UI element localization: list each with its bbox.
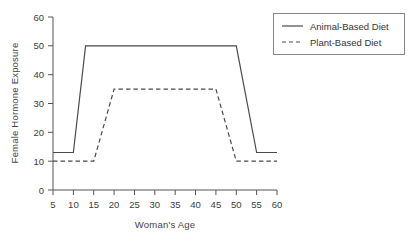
x-tick-label: 5 [50, 199, 55, 210]
x-tick-label: 55 [251, 199, 262, 210]
y-tick-label: 20 [33, 127, 44, 138]
x-tick-label: 10 [68, 199, 79, 210]
y-axis-title: Female Hormone Exposure [9, 43, 20, 164]
legend: Animal-Based Diet Plant-Based Diet [274, 14, 405, 55]
line-chart: 60 50 40 30 20 10 0 5 10 15 20 25 30 35 … [0, 0, 409, 247]
x-axis-title: Woman's Age [135, 219, 195, 230]
y-tick-label: 10 [33, 156, 44, 167]
x-tick-label: 25 [129, 199, 140, 210]
x-tick-label: 35 [170, 199, 181, 210]
x-tick-label: 50 [231, 199, 242, 210]
x-tick-label: 30 [150, 199, 161, 210]
x-tick-label: 45 [211, 199, 222, 210]
x-tick-label: 40 [190, 199, 201, 210]
y-tick-label: 50 [33, 40, 44, 51]
y-tick-label: 60 [33, 12, 44, 23]
y-tick-label: 0 [39, 185, 44, 196]
x-tick-label: 15 [88, 199, 99, 210]
x-tick-label: 20 [109, 199, 120, 210]
y-tick-label: 40 [33, 69, 44, 80]
x-tick-label: 60 [272, 199, 283, 210]
legend-label-plant-based-diet: Plant-Based Diet [310, 37, 382, 48]
y-tick-label: 30 [33, 98, 44, 109]
legend-label-animal-based-diet: Animal-Based Diet [310, 21, 389, 32]
